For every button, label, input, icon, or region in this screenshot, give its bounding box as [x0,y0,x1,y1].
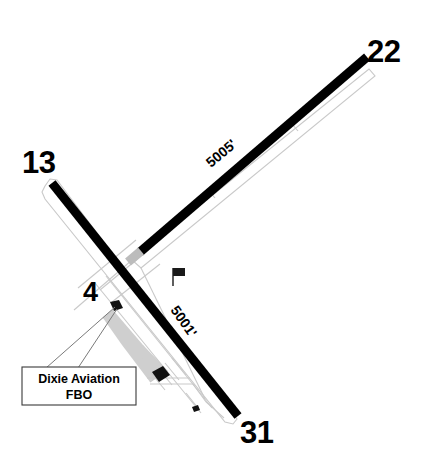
runway-end-label-4: 4 [83,277,98,307]
fbo-callout-line2: FBO [66,388,93,402]
airport-diagram: Dixie Aviation FBO 22 13 4 31 5005' 5001… [0,0,429,470]
runway-4-22-pavement [132,69,375,268]
windsock-icon [173,268,185,286]
runway-end-label-31: 31 [240,415,274,450]
runway-end-label-13: 13 [22,145,56,180]
runway-end-label-22: 22 [367,34,400,69]
runway-length-label-4-22: 5005' [203,136,240,170]
fbo-callout-line1: Dixie Aviation [38,372,120,386]
runway-4-22-surface [128,57,367,262]
fbo-callout: Dixie Aviation FBO [22,367,136,405]
